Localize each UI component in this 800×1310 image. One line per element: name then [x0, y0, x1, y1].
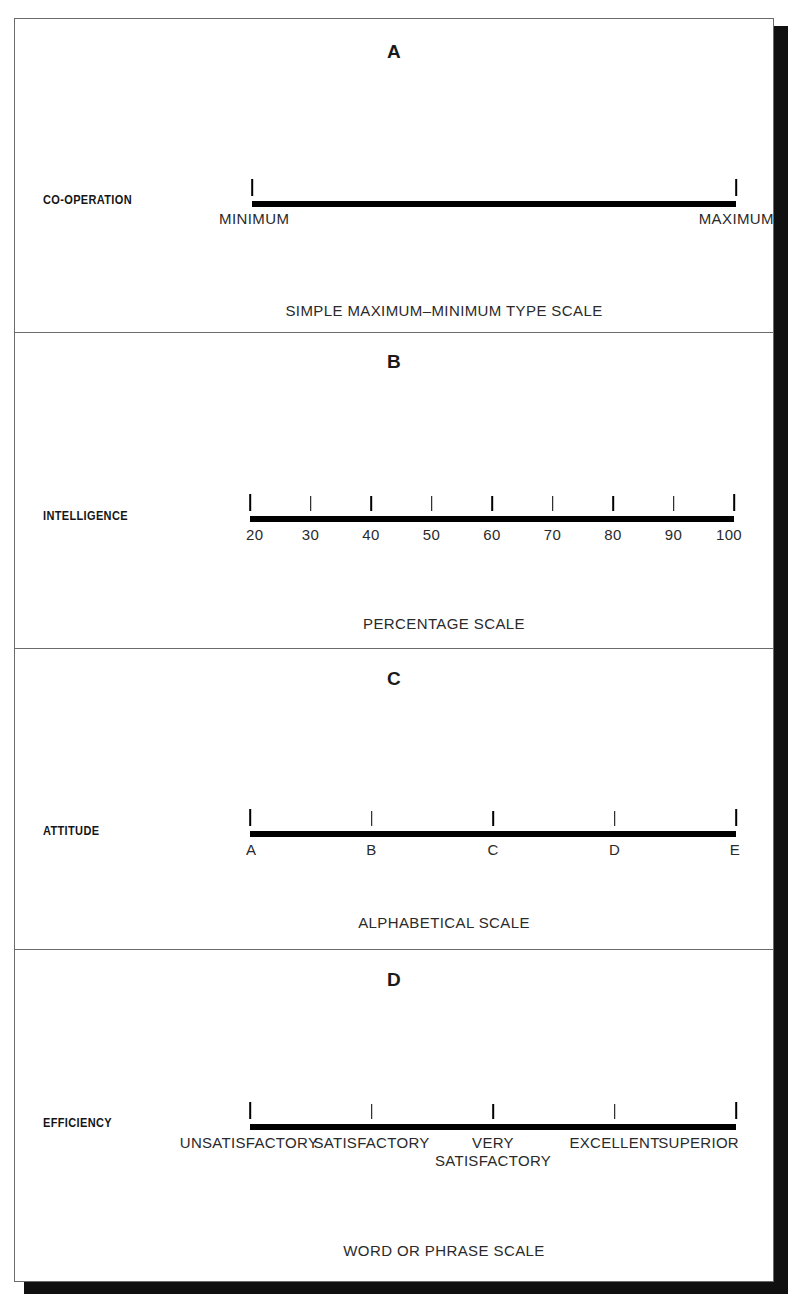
- scale-tick-d-excellent: [614, 1104, 616, 1119]
- scale-tick-d-unsatisfactory: [249, 1102, 251, 1119]
- scale-tick-b-90: [673, 496, 675, 511]
- scale-label-a-maximum: MAXIMUM: [699, 210, 774, 227]
- scale-tick-b-20: [249, 494, 251, 511]
- scale-label-b-100: 100: [716, 526, 742, 543]
- figure-frame: A CO-OPERATION MINIMUM MAXIMUM SIMPLE MA…: [14, 18, 774, 1282]
- scale-label-d-very-satisfactory-line2: SATISFACTORY: [435, 1152, 551, 1169]
- scale-tick-b-60: [491, 496, 493, 511]
- scale-caption-b: PERCENTAGE SCALE: [15, 615, 773, 632]
- scale-tick-c-a: [249, 809, 251, 826]
- scale-tick-b-70: [552, 496, 554, 511]
- scale-tick-d-very-satisfactory: [492, 1104, 494, 1119]
- trait-label-intelligence: INTELLIGENCE: [43, 509, 128, 523]
- scale-tick-c-c: [492, 811, 494, 826]
- scale-tick-c-b: [371, 811, 373, 826]
- scale-label-b-90: 90: [665, 526, 682, 543]
- scale-tick-c-e: [735, 809, 737, 826]
- scale-label-c-b: B: [366, 841, 376, 858]
- panel-letter-b: B: [15, 351, 773, 373]
- trait-label-co-operation: CO-OPERATION: [43, 193, 132, 207]
- panel-letter-a: A: [15, 41, 773, 63]
- scale-label-d-satisfactory: SATISFACTORY: [313, 1134, 429, 1151]
- scale-label-b-20: 20: [246, 526, 263, 543]
- scale-tick-b-30: [310, 496, 312, 511]
- scale-label-b-50: 50: [423, 526, 440, 543]
- scale-tick-b-100: [733, 494, 735, 511]
- scale-caption-c: ALPHABETICAL SCALE: [15, 914, 773, 931]
- scale-caption-a: SIMPLE MAXIMUM–MINIMUM TYPE SCALE: [15, 302, 773, 319]
- scale-label-b-70: 70: [544, 526, 561, 543]
- scale-label-b-30: 30: [302, 526, 319, 543]
- scale-label-c-d: D: [609, 841, 620, 858]
- scale-label-a-minimum: MINIMUM: [219, 210, 289, 227]
- panel-letter-d: D: [15, 969, 773, 991]
- scale-tick-b-80: [612, 496, 614, 511]
- panel-a: A CO-OPERATION MINIMUM MAXIMUM SIMPLE MA…: [15, 19, 773, 332]
- panel-c: C ATTITUDE A B C D E ALPHABETICAL SCALE: [15, 648, 773, 949]
- scale-tick-b-40: [370, 496, 372, 511]
- scale-tick-c-d: [614, 811, 616, 826]
- scale-bar-a: [252, 201, 736, 207]
- scale-caption-d: WORD OR PHRASE SCALE: [15, 1242, 773, 1259]
- scale-label-c-a: A: [246, 841, 256, 858]
- scale-bar-b: [250, 516, 734, 522]
- scale-label-d-very: VERY: [472, 1134, 514, 1151]
- scale-label-d-excellent: EXCELLENT: [569, 1134, 659, 1151]
- scale-label-b-60: 60: [483, 526, 500, 543]
- scale-tick-a-max: [735, 179, 737, 196]
- scale-bar-d: [250, 1124, 736, 1130]
- trait-label-efficiency: EFFICIENCY: [43, 1116, 112, 1130]
- scale-bar-c: [250, 831, 736, 837]
- trait-label-attitude: ATTITUDE: [43, 824, 99, 838]
- scale-label-d-unsatisfactory: UNSATISFACTORY: [180, 1134, 318, 1151]
- scale-label-b-80: 80: [604, 526, 621, 543]
- panel-letter-c: C: [15, 668, 773, 690]
- panel-b: B INTELLIGENCE 20 30 40 50 60 70 80 90 1…: [15, 332, 773, 648]
- scale-tick-a-min: [251, 179, 253, 196]
- scale-label-c-e: E: [730, 841, 740, 858]
- scale-label-b-40: 40: [362, 526, 379, 543]
- panel-d: D EFFICIENCY UNSATISFACTORY SATISFACTORY…: [15, 949, 773, 1281]
- scale-tick-b-50: [431, 496, 433, 511]
- scale-label-c-c: C: [487, 841, 498, 858]
- scale-tick-d-satisfactory: [371, 1104, 373, 1119]
- scale-tick-d-superior: [735, 1102, 737, 1119]
- scale-label-d-superior: SUPERIOR: [658, 1134, 739, 1151]
